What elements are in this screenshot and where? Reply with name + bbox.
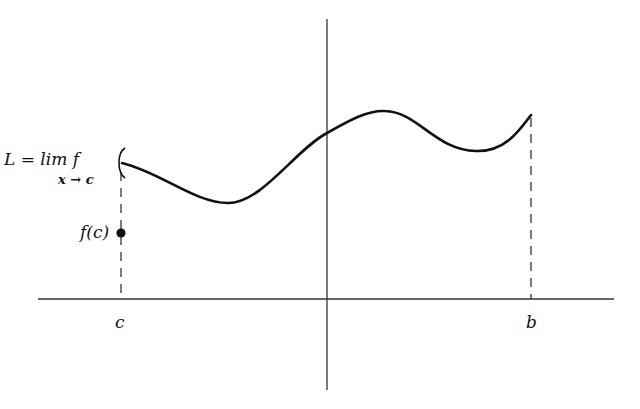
fc-dot: [116, 228, 125, 237]
limit-label: L = lim f: [4, 149, 79, 169]
fc-label-text: f(c): [80, 222, 109, 242]
function-graph: [0, 0, 640, 409]
fc-label: f(c): [80, 222, 109, 242]
c-label-text: c: [115, 312, 125, 332]
b-label: b: [526, 312, 537, 332]
limit-label-text: L = lim f: [4, 149, 79, 169]
b-label-text: b: [526, 312, 537, 332]
c-label: c: [115, 312, 125, 332]
limit-subscript-text: x → c: [58, 172, 94, 187]
limit-subscript: x → c: [58, 172, 94, 187]
